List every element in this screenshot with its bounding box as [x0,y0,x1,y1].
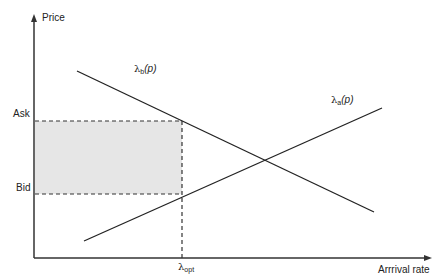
diagram-canvas [0,0,446,279]
ask-label: Ask [13,108,30,119]
y-axis-label: Price [42,12,65,23]
x-axis-label: Arrrival rate [378,264,430,275]
spread-region [35,121,182,194]
lambda-opt-label: λopt [178,261,194,272]
x-axis-arrow-icon [424,255,432,261]
bid-label: Bid [16,182,30,193]
lambda-b-label: λb(p) [134,63,156,74]
lambda-a-label: λa(p) [331,94,353,105]
y-axis-arrow-icon [31,14,37,22]
